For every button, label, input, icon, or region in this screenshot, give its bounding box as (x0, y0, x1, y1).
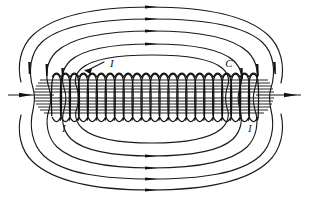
arrow-left-loop3 (46, 64, 49, 76)
arrow-axis-right (284, 93, 297, 97)
field-loop-4 (30, 19, 273, 179)
arrow-bottom-loop2 (145, 155, 158, 158)
field-arrowheads-left (28, 62, 64, 79)
label-current-bottom-left: I (61, 123, 66, 134)
arrow-bottom-loop4 (145, 178, 158, 181)
arrow-top-loop3 (145, 30, 158, 33)
label-coil-c: C (225, 57, 233, 69)
field-arrowheads-top (145, 6, 158, 46)
solenoid-field-diagram: I C I I (0, 0, 309, 198)
arrow-bottom-open (145, 189, 158, 192)
arrow-bottom-loop3 (145, 167, 158, 170)
arrow-top-open (145, 6, 158, 9)
field-loop-1 (75, 55, 228, 143)
arrow-axis-left (19, 93, 32, 97)
label-current-bottom-right: I (247, 123, 252, 134)
open-arc-top-right (150, 7, 282, 83)
diagram-canvas: I C I I (0, 0, 309, 198)
field-line-loops (30, 19, 273, 179)
field-arrowheads-bottom (145, 155, 158, 192)
field-loop-2 (62, 44, 241, 156)
arrow-top-loop4 (145, 18, 158, 21)
label-current-top-left: I (109, 57, 115, 69)
arrow-top-loop2 (145, 43, 158, 46)
